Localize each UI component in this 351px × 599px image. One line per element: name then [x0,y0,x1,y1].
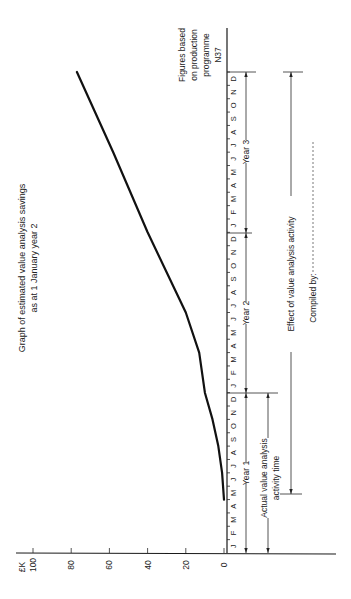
chart-subtitle: as at 1 January year 2 [29,223,39,312]
month-label: J [229,384,238,388]
month-label: F [229,210,238,215]
month-label: O [229,423,238,429]
month-label: J [229,143,238,147]
month-label: M [229,490,238,496]
month-label: A [229,183,238,188]
month-label: J [229,317,238,321]
value-tick-label: 60 [104,560,114,570]
month-label: A [229,290,238,295]
month-label: D [229,396,238,402]
month-label: D [229,75,238,81]
value-tick-label: 100 [28,558,38,572]
month-label: M [229,196,238,202]
month-label: A [229,343,238,348]
savings-chart: 020406080100 JFMAMJJASONDJFMAMJJASONDJFM… [0,0,351,599]
month-label: M [229,356,238,362]
unit-label: £K [17,561,27,572]
figures-note-line2: on production [189,29,199,81]
actual-activity-line2: activity time [271,456,281,501]
month-label: S [229,277,238,282]
chart-title: Graph of estimated value analysis saving… [17,183,27,352]
month-label: D [229,236,238,242]
year1-label: Year 1 [241,461,251,486]
figures-note-line1: Figures based [177,28,187,82]
month-label: S [229,437,238,442]
month-label: A [229,450,238,455]
figures-note-line3: programme [201,33,211,77]
month-label: J [229,464,238,468]
year2-label: Year 2 [241,301,251,326]
month-label: J [229,224,238,228]
month-label: N [229,89,238,94]
month-label: N [229,410,238,415]
savings-line [77,72,224,500]
month-label: A [229,504,238,509]
month-label: J [229,304,238,308]
month-label: F [229,370,238,375]
month-label: J [229,544,238,548]
value-tick-label: 0 [219,562,229,567]
month-label: M [229,329,238,335]
value-ticks: 020406080100 [28,548,229,572]
month-label: M [229,169,238,175]
month-label: M [229,516,238,522]
month-label: A [229,130,238,135]
month-label: J [229,157,238,161]
value-tick-label: 80 [66,560,76,570]
figures-note-line4: N37 [213,47,223,63]
effect-label: Effect of value analysis activity [286,216,296,332]
value-tick-label: 20 [181,560,191,570]
month-label: S [229,116,238,121]
actual-activity-line1: Actual value analysis [259,438,269,517]
month-label: F [229,530,238,535]
month-label: N [229,250,238,255]
month-label: O [229,263,238,269]
value-tick-label: 40 [143,560,153,570]
year3-label: Year 3 [241,140,251,165]
compiled-by-label: Compiled by: [308,273,318,323]
month-label: O [229,102,238,108]
month-label: J [229,477,238,481]
value-axis [16,553,336,554]
month-strip: JFMAMJJASONDJFMAMJJASONDJFMAMJJASOND [227,72,238,548]
